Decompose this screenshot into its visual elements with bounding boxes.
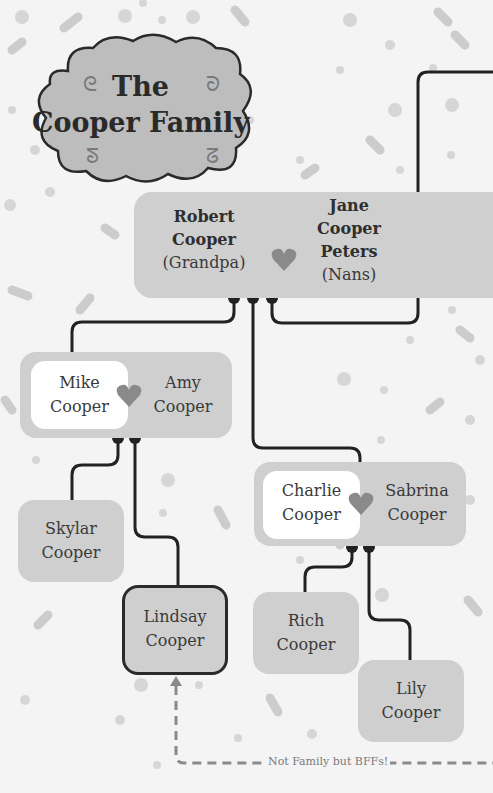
person-mike-first: Mike: [31, 372, 128, 394]
person-lindsay-last: Cooper: [125, 630, 225, 652]
swirl-icon: ᘔ: [206, 144, 219, 168]
person-lindsay: Lindsay Cooper: [122, 585, 228, 675]
person-jane-last: Peters: [294, 241, 404, 263]
person-amy-first: Amy: [138, 372, 228, 394]
person-lindsay-first: Lindsay: [125, 606, 225, 628]
person-robert-nickname: (Grandpa): [134, 252, 274, 274]
title-line-2: Cooper Family: [28, 106, 253, 140]
person-charlie-last: Cooper: [263, 504, 360, 526]
couple-charlie-sabrina: Charlie Cooper Sabrina Cooper: [254, 462, 466, 546]
person-rich-last: Cooper: [253, 634, 359, 656]
person-robert-first: Robert: [134, 206, 274, 228]
person-amy-last: Cooper: [138, 396, 228, 418]
couple-grandparents: Robert Cooper (Grandpa) Jane Cooper Pete…: [134, 192, 493, 298]
swirl-icon: ᘓ: [83, 72, 97, 96]
person-mike-last: Cooper: [31, 396, 128, 418]
person-skylar-last: Cooper: [18, 542, 124, 564]
swirl-icon: ᘕ: [86, 144, 99, 168]
bff-annotation: Not Family but BFFs!: [266, 755, 390, 768]
person-lily-first: Lily: [358, 678, 464, 700]
person-lily-last: Cooper: [358, 702, 464, 724]
person-sabrina-first: Sabrina: [372, 480, 462, 502]
person-jane-nickname: (Nans): [294, 264, 404, 286]
heart-icon: [348, 492, 374, 516]
person-robert-last: Cooper: [134, 229, 274, 251]
person-jane-middle: Cooper: [294, 218, 404, 240]
title-cloud: The Cooper Family ᘓ ᘐ ᘕ ᘔ: [28, 26, 253, 186]
swirl-icon: ᘐ: [206, 72, 220, 96]
person-charlie-first: Charlie: [263, 480, 360, 502]
person-rich-first: Rich: [253, 610, 359, 632]
person-sabrina-last: Cooper: [372, 504, 462, 526]
person-skylar-first: Skylar: [18, 518, 124, 540]
couple-mike-amy: Mike Cooper Amy Cooper: [20, 352, 232, 438]
person-jane-first: Jane: [294, 195, 404, 217]
person-rich: Rich Cooper: [253, 592, 359, 674]
person-skylar: Skylar Cooper: [18, 500, 124, 582]
person-lily: Lily Cooper: [358, 660, 464, 742]
